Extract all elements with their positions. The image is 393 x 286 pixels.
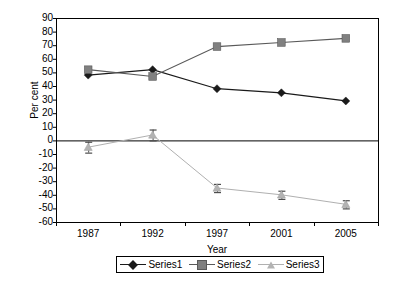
legend-marker-diamond-icon — [120, 259, 146, 270]
legend-item-series2[interactable]: Series2 — [189, 259, 251, 270]
legend-item-series3[interactable]: Series3 — [258, 259, 320, 270]
line-chart: Per cent 9080706050403020100-10-20-30-40… — [0, 0, 393, 286]
chart-legend: Series1Series2Series3 — [116, 256, 324, 273]
x-axis-tick-label-text: 2001 — [251, 228, 311, 239]
x-axis-tick-label-text: 1997 — [187, 228, 247, 239]
x-axis-tick-label-text: 2005 — [316, 228, 376, 239]
series-2-marker — [278, 39, 286, 47]
legend-item-label: Series3 — [286, 260, 320, 270]
series-2-marker — [149, 73, 157, 81]
legend-item-series1[interactable]: Series1 — [120, 259, 182, 270]
series-2-marker — [213, 43, 221, 51]
legend-item-label: Series2 — [217, 260, 251, 270]
legend-marker-square-icon — [189, 259, 215, 270]
legend-marker-triangle-icon — [258, 259, 284, 270]
legend-marker — [128, 260, 138, 270]
x-axis-tick-label-text: 1987 — [58, 228, 118, 239]
x-axis-tick-label-text: 1992 — [123, 228, 183, 239]
x-axis-title: Year — [55, 244, 379, 255]
series-2-marker — [342, 35, 350, 43]
series-2-marker — [84, 66, 92, 74]
legend-marker — [197, 260, 207, 270]
legend-item-label: Series1 — [148, 260, 182, 270]
legend-marker — [267, 261, 275, 268]
